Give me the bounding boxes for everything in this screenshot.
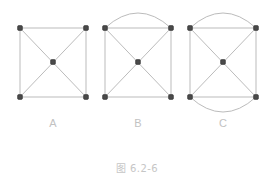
panel-label-b: B: [118, 116, 158, 130]
vertex-a-center: [51, 60, 56, 65]
graph-panel-b: [103, 13, 174, 99]
graph-panel-c: [188, 13, 259, 112]
vertex-c-top-left: [188, 26, 193, 31]
vertex-a-top-left: [18, 26, 23, 31]
panel-label-a: A: [33, 116, 73, 130]
vertex-b-top-left: [103, 26, 108, 31]
vertex-a-bottom-left: [18, 95, 23, 100]
vertex-c-bottom-left: [188, 95, 193, 100]
figure-container: A B C 图 6.2-6: [0, 0, 274, 180]
vertex-a-bottom-right: [84, 95, 89, 100]
vertex-b-bottom-left: [103, 95, 108, 100]
arc-bottom-arc: [190, 97, 256, 112]
graph-panel-a: [18, 26, 89, 100]
vertex-a-top-right: [84, 26, 89, 31]
vertex-b-bottom-right: [169, 95, 174, 100]
vertex-c-bottom-right: [254, 95, 259, 100]
vertex-b-center: [136, 60, 141, 65]
figure-caption: 图 6.2-6: [0, 160, 274, 175]
arc-top-arc: [190, 13, 256, 28]
vertex-b-top-right: [169, 26, 174, 31]
panel-label-row: A B C: [0, 116, 274, 138]
arc-top-arc: [105, 13, 171, 28]
vertex-c-top-right: [254, 26, 259, 31]
panel-label-c: C: [203, 116, 243, 130]
vertex-c-center: [221, 60, 226, 65]
